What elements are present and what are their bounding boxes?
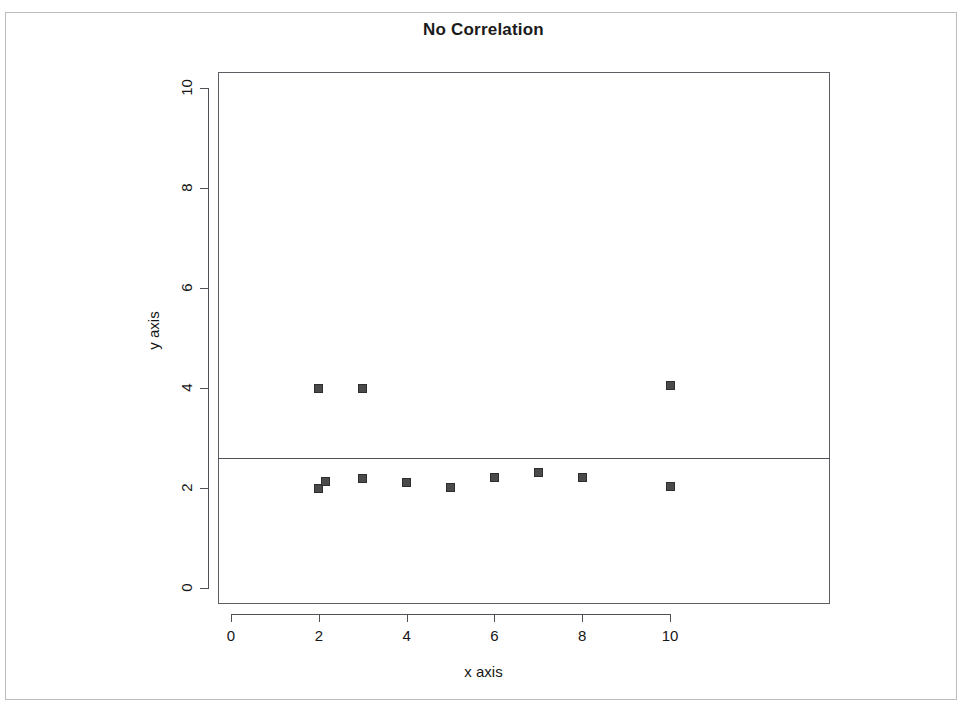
x-axis-tick <box>231 614 232 622</box>
x-axis-tick-label: 4 <box>387 627 427 644</box>
x-axis-tick <box>494 614 495 622</box>
y-axis-line <box>208 88 209 588</box>
y-axis-tick-label: 8 <box>178 168 195 208</box>
x-axis-tick-label: 0 <box>211 627 251 644</box>
y-axis-tick <box>200 588 209 589</box>
y-axis-tick-label: 6 <box>178 268 195 308</box>
data-point <box>578 473 587 482</box>
data-point <box>314 384 323 393</box>
y-axis-tick-label: 10 <box>178 68 195 108</box>
figure-canvas: No Correlation 02468100246810 x axis y a… <box>0 0 967 714</box>
x-axis-tick <box>407 614 408 622</box>
y-axis-tick <box>200 288 209 289</box>
y-axis-tick-label: 4 <box>178 368 195 408</box>
data-point <box>666 381 675 390</box>
data-point <box>358 384 367 393</box>
y-axis-tick <box>200 388 209 389</box>
y-axis-label: y axis <box>145 291 162 371</box>
x-axis-tick <box>670 614 671 622</box>
y-axis-tick <box>200 188 209 189</box>
data-point <box>490 473 499 482</box>
data-point <box>666 482 675 491</box>
data-point <box>402 478 411 487</box>
x-axis-tick-label: 6 <box>474 627 514 644</box>
y-axis-tick-label: 0 <box>178 568 195 608</box>
plot-area <box>218 72 830 604</box>
x-axis-label: x axis <box>0 663 967 680</box>
x-axis-tick <box>582 614 583 622</box>
data-point <box>321 477 330 486</box>
chart-title: No Correlation <box>0 20 967 40</box>
y-axis-tick <box>200 488 209 489</box>
data-point <box>358 474 367 483</box>
x-axis-tick <box>319 614 320 622</box>
x-axis-tick-label: 8 <box>562 627 602 644</box>
data-point <box>446 483 455 492</box>
x-axis-line <box>231 614 670 615</box>
x-axis-tick-label: 2 <box>299 627 339 644</box>
data-point <box>534 468 543 477</box>
y-axis-tick-label: 2 <box>178 468 195 508</box>
x-axis-tick-label: 10 <box>650 627 690 644</box>
regression-line-annotation <box>218 458 830 459</box>
y-axis-tick <box>200 88 209 89</box>
